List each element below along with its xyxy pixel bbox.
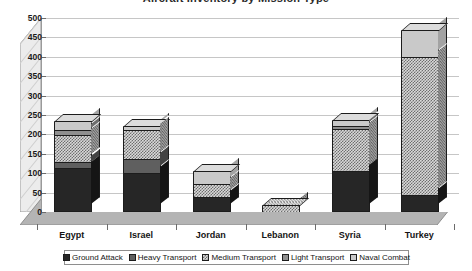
gridline xyxy=(42,18,459,19)
x-axis-label-jordan: Jordan xyxy=(173,230,249,241)
legend-item-label: Heavy Transport xyxy=(138,253,197,262)
y-axis-tick-label: 400 xyxy=(8,53,42,61)
y-axis-tick-label: 150 xyxy=(8,150,42,158)
bar-segment xyxy=(123,173,161,212)
y-axis-tick-label: 450 xyxy=(8,33,42,41)
x-axis-label-egypt: Egypt xyxy=(34,230,110,241)
y-axis-tick-mark xyxy=(42,134,46,135)
chart-legend: Ground AttackHeavy TransportMedium Trans… xyxy=(64,250,409,265)
x-axis-tick-mark xyxy=(454,224,455,230)
x-axis-tick-mark xyxy=(107,224,108,230)
bar-segment xyxy=(262,205,300,212)
bar-segment-side xyxy=(160,167,169,204)
bar-segment xyxy=(193,184,231,197)
legend-swatch-icon xyxy=(129,254,136,261)
legend-item-naval-combat[interactable]: Naval Combat xyxy=(350,253,410,262)
chart-canvas: 050100150200250300350400450500 xyxy=(0,5,472,227)
legend-item-label: Medium Transport xyxy=(211,253,275,262)
bar-segment-side xyxy=(438,51,447,188)
bar-segment xyxy=(193,197,231,212)
gridline xyxy=(42,193,459,194)
y-axis-tick-label: 500 xyxy=(8,14,42,22)
legend-item-label: Ground Attack xyxy=(72,253,123,262)
bar-jordan[interactable] xyxy=(193,171,231,212)
y-axis-tick-label: 50 xyxy=(8,189,42,197)
bar-segment-side xyxy=(369,165,378,204)
y-axis-tick-label: 250 xyxy=(8,111,42,119)
bar-segment xyxy=(401,57,439,195)
bar-segment xyxy=(401,195,439,212)
y-axis-tick-mark xyxy=(42,212,46,213)
bar-segment xyxy=(401,30,439,57)
y-axis-tick-mark xyxy=(42,154,46,155)
bar-segment xyxy=(54,121,92,130)
bar-segment xyxy=(193,171,231,184)
legend-item-label: Light Transport xyxy=(291,253,344,262)
x-axis: EgyptIsraelJordanLebanonSyriaTurkey xyxy=(0,230,472,244)
x-axis-tick-mark xyxy=(176,224,177,230)
gridline xyxy=(42,154,459,155)
x-axis-label-israel: Israel xyxy=(103,230,179,241)
x-axis-tick-mark xyxy=(385,224,386,230)
bar-segment xyxy=(54,135,92,161)
legend-swatch-icon xyxy=(202,254,209,261)
y-axis-tick-mark xyxy=(42,57,46,58)
bar-syria[interactable] xyxy=(332,120,370,212)
y-axis-tick-label: 0 xyxy=(8,208,42,216)
bar-segment-side xyxy=(230,191,239,204)
bar-segment xyxy=(123,159,161,173)
y-axis-tick-mark xyxy=(42,193,46,194)
gridline xyxy=(42,76,459,77)
bar-segment xyxy=(54,168,92,212)
y-axis-tick-label: 300 xyxy=(8,92,42,100)
y-axis-tick-mark xyxy=(42,173,46,174)
y-axis-tick-label: 200 xyxy=(8,130,42,138)
bar-segment xyxy=(54,162,92,169)
gridline xyxy=(42,37,459,38)
gridline xyxy=(42,115,459,116)
legend-item-ground-attack[interactable]: Ground Attack xyxy=(63,253,123,262)
bar-segment xyxy=(332,129,370,172)
bar-egypt[interactable] xyxy=(54,121,92,212)
chart-title: Aircraft Inventory by Mission Type xyxy=(0,0,472,4)
bar-segment-side xyxy=(91,162,100,204)
y-axis-tick-mark xyxy=(42,115,46,116)
x-axis-tick-mark xyxy=(246,224,247,230)
y-axis-tick-mark xyxy=(42,18,46,19)
bar-segment-side xyxy=(438,189,447,204)
bar-lebanon[interactable] xyxy=(262,205,300,212)
y-axis-tick-label: 350 xyxy=(8,72,42,80)
legend-swatch-icon xyxy=(63,254,70,261)
bar-segment-side xyxy=(299,199,308,205)
x-axis-label-syria: Syria xyxy=(312,230,388,241)
legend-item-medium-transport[interactable]: Medium Transport xyxy=(202,253,275,262)
y-axis-tick-mark xyxy=(42,96,46,97)
y-axis-tick-mark xyxy=(42,76,46,77)
gridline xyxy=(42,173,459,174)
x-axis-tick-mark xyxy=(37,224,38,230)
legend-item-heavy-transport[interactable]: Heavy Transport xyxy=(129,253,197,262)
gridline xyxy=(42,96,459,97)
y-axis: 050100150200250300350400450500 xyxy=(6,18,42,212)
gridline xyxy=(42,134,459,135)
x-axis-label-turkey: Turkey xyxy=(381,230,457,241)
legend-item-label: Naval Combat xyxy=(359,253,410,262)
gridline xyxy=(42,57,459,58)
plot-area: 050100150200250300350400450500 xyxy=(41,18,459,212)
x-axis-tick-mark xyxy=(315,224,316,230)
legend-swatch-icon xyxy=(282,254,289,261)
legend-item-light-transport[interactable]: Light Transport xyxy=(282,253,344,262)
bar-turkey[interactable] xyxy=(401,30,439,212)
y-axis-tick-mark xyxy=(42,37,46,38)
bar-segment xyxy=(332,171,370,212)
x-axis-label-lebanon: Lebanon xyxy=(242,230,318,241)
legend-swatch-icon xyxy=(350,254,357,261)
y-axis-tick-label: 100 xyxy=(8,169,42,177)
bar-segment xyxy=(123,130,161,159)
bar-israel[interactable] xyxy=(123,126,161,212)
